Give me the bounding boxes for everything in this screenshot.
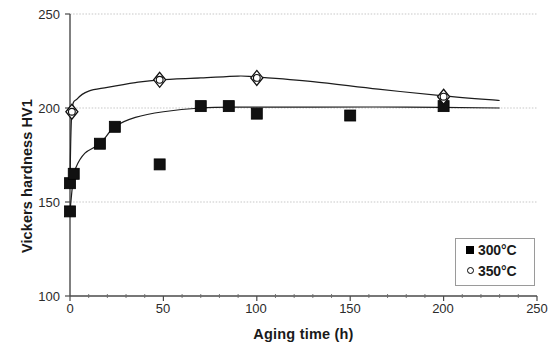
open-circle-icon [462,267,478,274]
legend-item-350c: 350°C [456,260,534,281]
legend-label-350c: 350°C [478,263,517,279]
legend: 300°C 350°C [455,238,535,286]
marker-300c-7 [223,101,234,112]
marker-350c-0 [66,104,78,119]
filled-square-icon [462,246,478,254]
marker-300c-5 [154,159,165,170]
plot-canvas [0,0,549,351]
marker-300c-0 [65,206,76,217]
data-markers-group [65,70,450,216]
marker-300c-9 [345,110,356,121]
marker-300c-2 [68,168,79,179]
marker-300c-6 [195,101,206,112]
marker-350c-1 [154,72,166,87]
marker-300c-4 [109,121,120,132]
marker-300c-3 [94,138,105,149]
legend-label-300c: 300°C [478,242,517,258]
trend-line-350c [70,76,500,183]
legend-item-300c: 300°C [456,239,534,260]
trend-line-300c [70,107,500,211]
trend-lines-group [70,76,500,211]
marker-350c-2 [251,70,263,85]
vickers-hardness-chart: Vickers hardness HV1 Aging time (h) 250 … [0,0,549,351]
marker-300c-8 [251,108,262,119]
